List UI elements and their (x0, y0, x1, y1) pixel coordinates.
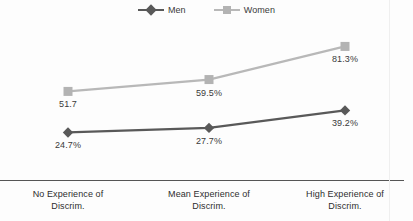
x-tick-label-line2: Discrim. (8, 200, 128, 212)
women-value-label: 59.5% (196, 88, 222, 98)
women-value-label: 81.3% (332, 54, 358, 64)
women-data-point (205, 75, 214, 84)
x-tick-label-line1: Mean Experience of (168, 189, 250, 199)
x-tick-label: No Experience ofDiscrim. (8, 188, 128, 212)
men-data-point (204, 123, 214, 133)
women-value-label: 51.7 (59, 99, 77, 109)
x-tick-label-line1: High Experience of (306, 189, 384, 199)
women-data-point (341, 42, 350, 51)
x-tick-label: High Experience ofDiscrim. (285, 188, 405, 212)
men-data-point (340, 105, 350, 115)
x-tick-label-line2: Discrim. (149, 200, 269, 212)
x-tick-label: Mean Experience ofDiscrim. (149, 188, 269, 212)
women-data-point (64, 87, 73, 96)
men-data-point (63, 127, 73, 137)
men-series-markers (63, 105, 350, 137)
x-tick-label-line1: No Experience of (33, 189, 104, 199)
men-value-label: 27.7% (196, 136, 222, 146)
x-tick-label-line2: Discrim. (285, 200, 405, 212)
women-series-line (68, 46, 345, 91)
x-axis-tick-labels: No Experience ofDiscrim.Mean Experience … (0, 188, 413, 221)
line-chart: Men Women 51.759.5%81.3%24.7%27.7%39.2% … (0, 0, 413, 221)
men-value-label: 24.7% (55, 140, 81, 150)
x-axis-line (0, 180, 404, 181)
men-value-label: 39.2% (332, 118, 358, 128)
